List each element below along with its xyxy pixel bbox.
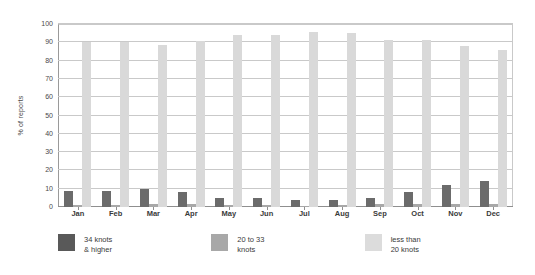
- y-tick-label-10: 10: [45, 184, 53, 191]
- x-label-mar: Mar: [135, 209, 173, 218]
- bar-group-jan: [59, 24, 97, 207]
- legend-label-line1-2: less than: [391, 235, 421, 244]
- bar-group-feb: [97, 24, 135, 207]
- y-axis-title-label: % of reports: [17, 95, 24, 135]
- bar-mar-series-0: [140, 189, 149, 207]
- wind-speed-bar-chart: % of reports 0102030405060708090100 JanF…: [0, 0, 535, 275]
- bar-nov-series-0: [442, 185, 451, 207]
- bar-group-may: [210, 24, 248, 207]
- bar-jul-series-0: [291, 200, 300, 207]
- bar-groups: [59, 24, 512, 207]
- chart-legend: 34 knots& higher20 to 33knotsless than20…: [58, 234, 518, 255]
- x-label-nov: Nov: [437, 209, 475, 218]
- x-label-jul: Jul: [286, 209, 324, 218]
- y-tick-label-60: 60: [45, 93, 53, 100]
- bar-group-nov: [437, 24, 475, 207]
- bar-group-oct: [399, 24, 437, 207]
- legend-label-0: 34 knots& higher: [84, 234, 112, 255]
- x-label-may: May: [210, 209, 248, 218]
- bar-group-sep: [361, 24, 399, 207]
- legend-label-line1-0: 34 knots: [84, 235, 112, 244]
- bar-sep-series-0: [366, 198, 375, 207]
- legend-item-2: less than20 knots: [365, 234, 518, 255]
- bar-aug-series-0: [329, 200, 338, 207]
- y-tick-label-80: 80: [45, 56, 53, 63]
- x-label-dec: Dec: [474, 209, 512, 218]
- bar-jan-series-0: [64, 191, 73, 207]
- bar-group-apr: [172, 24, 210, 207]
- bar-may-series-0: [215, 198, 224, 207]
- y-tick-label-40: 40: [45, 129, 53, 136]
- legend-item-0: 34 knots& higher: [58, 234, 211, 255]
- bar-apr-series-2: [196, 41, 205, 207]
- bar-aug-series-2: [347, 33, 356, 207]
- x-label-jun: Jun: [248, 209, 286, 218]
- bar-group-jun: [248, 24, 286, 207]
- bar-jan-series-2: [82, 42, 91, 207]
- y-axis-title: % of reports: [14, 24, 26, 207]
- legend-label-line1-1: 20 to 33: [237, 235, 264, 244]
- legend-label-line2-1: knots: [237, 245, 264, 255]
- y-tick-label-70: 70: [45, 74, 53, 81]
- legend-label-line2-0: & higher: [84, 245, 112, 255]
- bar-may-series-2: [233, 35, 242, 207]
- legend-swatch-1: [211, 234, 228, 251]
- bar-feb-series-0: [102, 191, 111, 207]
- bar-apr-series-0: [178, 192, 187, 207]
- bar-mar-series-2: [158, 45, 167, 207]
- y-tick-label-20: 20: [45, 166, 53, 173]
- x-label-oct: Oct: [399, 209, 437, 218]
- x-label-apr: Apr: [172, 209, 210, 218]
- legend-item-1: 20 to 33knots: [211, 234, 364, 255]
- x-label-sep: Sep: [361, 209, 399, 218]
- bar-jun-series-2: [271, 35, 280, 207]
- bar-dec-series-0: [480, 181, 489, 207]
- bar-oct-series-2: [422, 40, 431, 207]
- y-tick-label-90: 90: [45, 38, 53, 45]
- legend-label-1: 20 to 33knots: [237, 234, 264, 255]
- bar-jun-series-0: [253, 198, 262, 207]
- y-tick-label-30: 30: [45, 148, 53, 155]
- bar-feb-series-2: [120, 42, 129, 207]
- bar-jul-series-2: [309, 32, 318, 207]
- y-tick-label-0: 0: [49, 203, 53, 210]
- bar-group-aug: [323, 24, 361, 207]
- y-tick-label-100: 100: [41, 20, 53, 27]
- bar-dec-series-2: [498, 50, 507, 207]
- plot-area: 0102030405060708090100: [58, 24, 513, 207]
- legend-label-line2-2: 20 knots: [391, 245, 421, 255]
- legend-swatch-0: [58, 234, 75, 251]
- bar-group-mar: [135, 24, 173, 207]
- bar-nov-series-2: [460, 46, 469, 207]
- y-tick-label-50: 50: [45, 111, 53, 118]
- x-axis-labels: JanFebMarAprMayJunJulAugSepOctNovDec: [59, 209, 512, 218]
- x-label-aug: Aug: [323, 209, 361, 218]
- bar-group-jul: [286, 24, 324, 207]
- bar-sep-series-2: [384, 40, 393, 207]
- legend-label-2: less than20 knots: [391, 234, 421, 255]
- bar-group-dec: [474, 24, 512, 207]
- x-label-jan: Jan: [59, 209, 97, 218]
- x-label-feb: Feb: [97, 209, 135, 218]
- legend-swatch-2: [365, 234, 382, 251]
- bar-oct-series-0: [404, 192, 413, 207]
